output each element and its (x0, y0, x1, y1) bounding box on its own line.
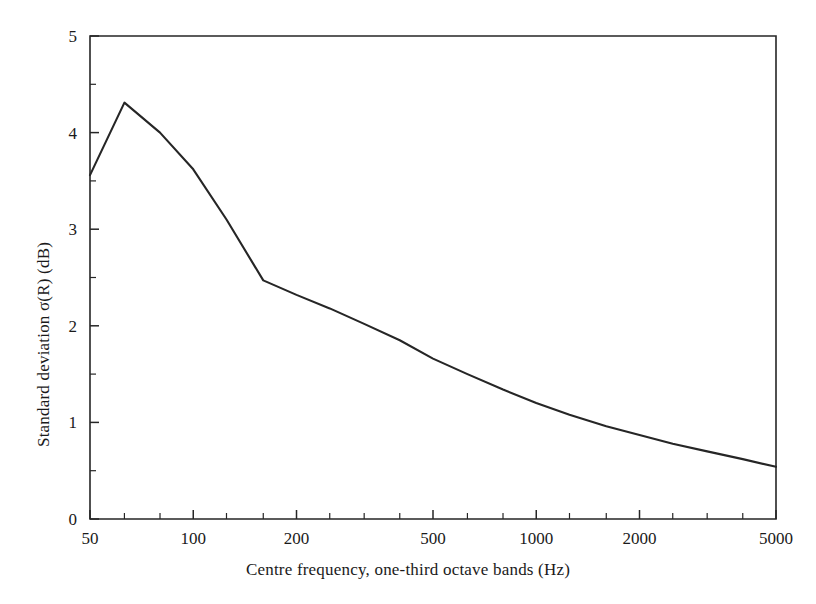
svg-text:1: 1 (69, 413, 78, 432)
svg-text:500: 500 (420, 529, 446, 548)
svg-text:200: 200 (284, 529, 310, 548)
chart-plot-area: 012345 50100200500100020005000 (0, 0, 816, 604)
svg-text:4: 4 (69, 124, 78, 143)
svg-text:5: 5 (69, 27, 78, 46)
chart-background (0, 0, 816, 604)
svg-text:3: 3 (69, 220, 78, 239)
svg-text:50: 50 (82, 529, 99, 548)
svg-text:2: 2 (69, 317, 78, 336)
x-axis-title: Centre frequency, one-third octave bands… (0, 560, 816, 580)
svg-text:0: 0 (69, 510, 78, 529)
svg-text:5000: 5000 (759, 529, 793, 548)
y-axis-title: Standard deviation σ(R) (dB) (34, 242, 54, 447)
svg-text:2000: 2000 (623, 529, 657, 548)
svg-text:100: 100 (181, 529, 207, 548)
svg-text:1000: 1000 (519, 529, 553, 548)
figure-container: 012345 50100200500100020005000 Centre fr… (0, 0, 816, 604)
